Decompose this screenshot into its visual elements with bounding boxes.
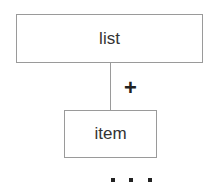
item-node-label: item: [94, 124, 126, 144]
item-node: item: [64, 110, 157, 158]
cardinality-plus-icon: +: [124, 76, 137, 100]
list-node: list: [16, 14, 203, 63]
list-node-label: list: [99, 29, 120, 49]
ellipsis-dot-icon: [129, 178, 133, 182]
ellipsis-dot-icon: [111, 178, 115, 182]
ellipsis-dot-icon: [148, 178, 152, 182]
connector-line: [110, 63, 111, 110]
